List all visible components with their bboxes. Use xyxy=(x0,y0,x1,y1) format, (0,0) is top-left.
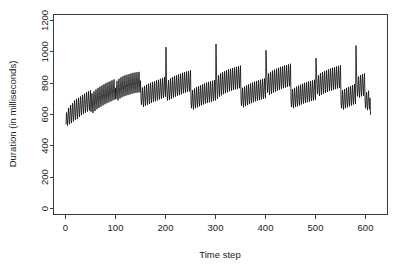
x-tick-label: 0 xyxy=(63,222,68,233)
x-tick-label: 300 xyxy=(208,222,224,233)
y-tick-label: 400 xyxy=(39,138,50,154)
plot-frame xyxy=(54,15,388,215)
x-axis: 0100200300400500600 xyxy=(63,215,374,233)
y-tick-label: 200 xyxy=(39,169,50,185)
y-tick-label: 0 xyxy=(39,206,50,211)
x-tick-label: 400 xyxy=(258,222,274,233)
y-axis-title: Duration (in milliseconds) xyxy=(7,61,18,168)
duration-series-line xyxy=(66,44,371,126)
time-series-chart: 020040060080010001200 010020030040050060… xyxy=(0,0,408,268)
y-tick-label: 1200 xyxy=(39,10,50,31)
x-tick-label: 200 xyxy=(158,222,174,233)
y-tick-label: 600 xyxy=(39,107,50,123)
y-axis: 020040060080010001200 xyxy=(39,10,53,211)
x-axis-title: Time step xyxy=(199,249,240,260)
y-tick-label: 1000 xyxy=(39,41,50,62)
x-tick-label: 500 xyxy=(308,222,324,233)
y-tick-label: 800 xyxy=(39,75,50,91)
x-tick-label: 600 xyxy=(358,222,374,233)
x-tick-label: 100 xyxy=(108,222,124,233)
chart-container: 020040060080010001200 010020030040050060… xyxy=(0,0,408,268)
